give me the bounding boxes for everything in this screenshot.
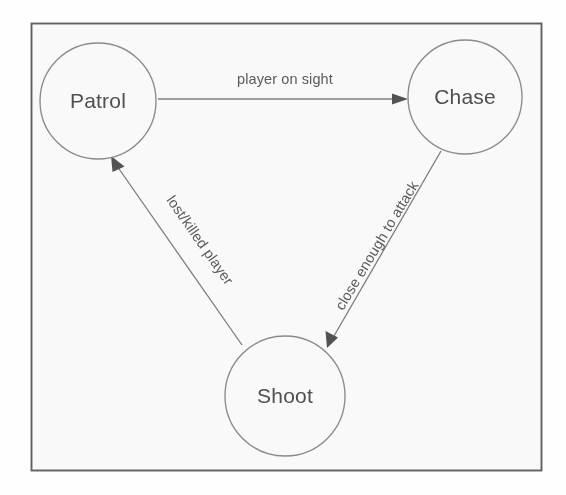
- diagram-canvas: player on sight close enough to attack l…: [0, 0, 566, 495]
- state-label-patrol: Patrol: [70, 89, 126, 112]
- state-machine-diagram: player on sight close enough to attack l…: [0, 0, 566, 495]
- state-node-patrol[interactable]: Patrol: [40, 43, 156, 159]
- state-node-chase[interactable]: Chase: [408, 40, 522, 154]
- state-label-chase: Chase: [434, 85, 496, 108]
- transition-label-player-on-sight: player on sight: [237, 71, 333, 87]
- state-label-shoot: Shoot: [257, 384, 313, 407]
- state-node-shoot[interactable]: Shoot: [225, 336, 345, 456]
